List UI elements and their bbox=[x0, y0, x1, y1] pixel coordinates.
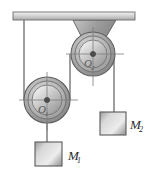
mass-1-body bbox=[35, 142, 62, 166]
mass-block-1: M 1 bbox=[35, 142, 81, 166]
mass-2-label-subscript: 2 bbox=[139, 125, 143, 134]
upper-pulley: O 2 bbox=[66, 27, 124, 86]
mass-2-body bbox=[100, 112, 126, 135]
ceiling-bar-body bbox=[13, 12, 135, 20]
ceiling-support-bar bbox=[13, 12, 135, 20]
diagram-canvas: O 2 O 1 M 1 M 2 bbox=[0, 0, 148, 174]
upper-pulley-hub bbox=[90, 51, 95, 56]
lower-pulley-hub bbox=[44, 97, 49, 102]
mass-1-label-subscript: 1 bbox=[77, 156, 81, 165]
mass-block-2: M 2 bbox=[100, 112, 143, 135]
upper-pulley-label-subscript: 2 bbox=[91, 64, 95, 72]
lower-pulley: O 1 bbox=[19, 72, 78, 131]
physics-diagram-pulley-system: O 2 O 1 M 1 M 2 bbox=[0, 0, 148, 174]
lower-pulley-label-subscript: 1 bbox=[45, 110, 49, 118]
